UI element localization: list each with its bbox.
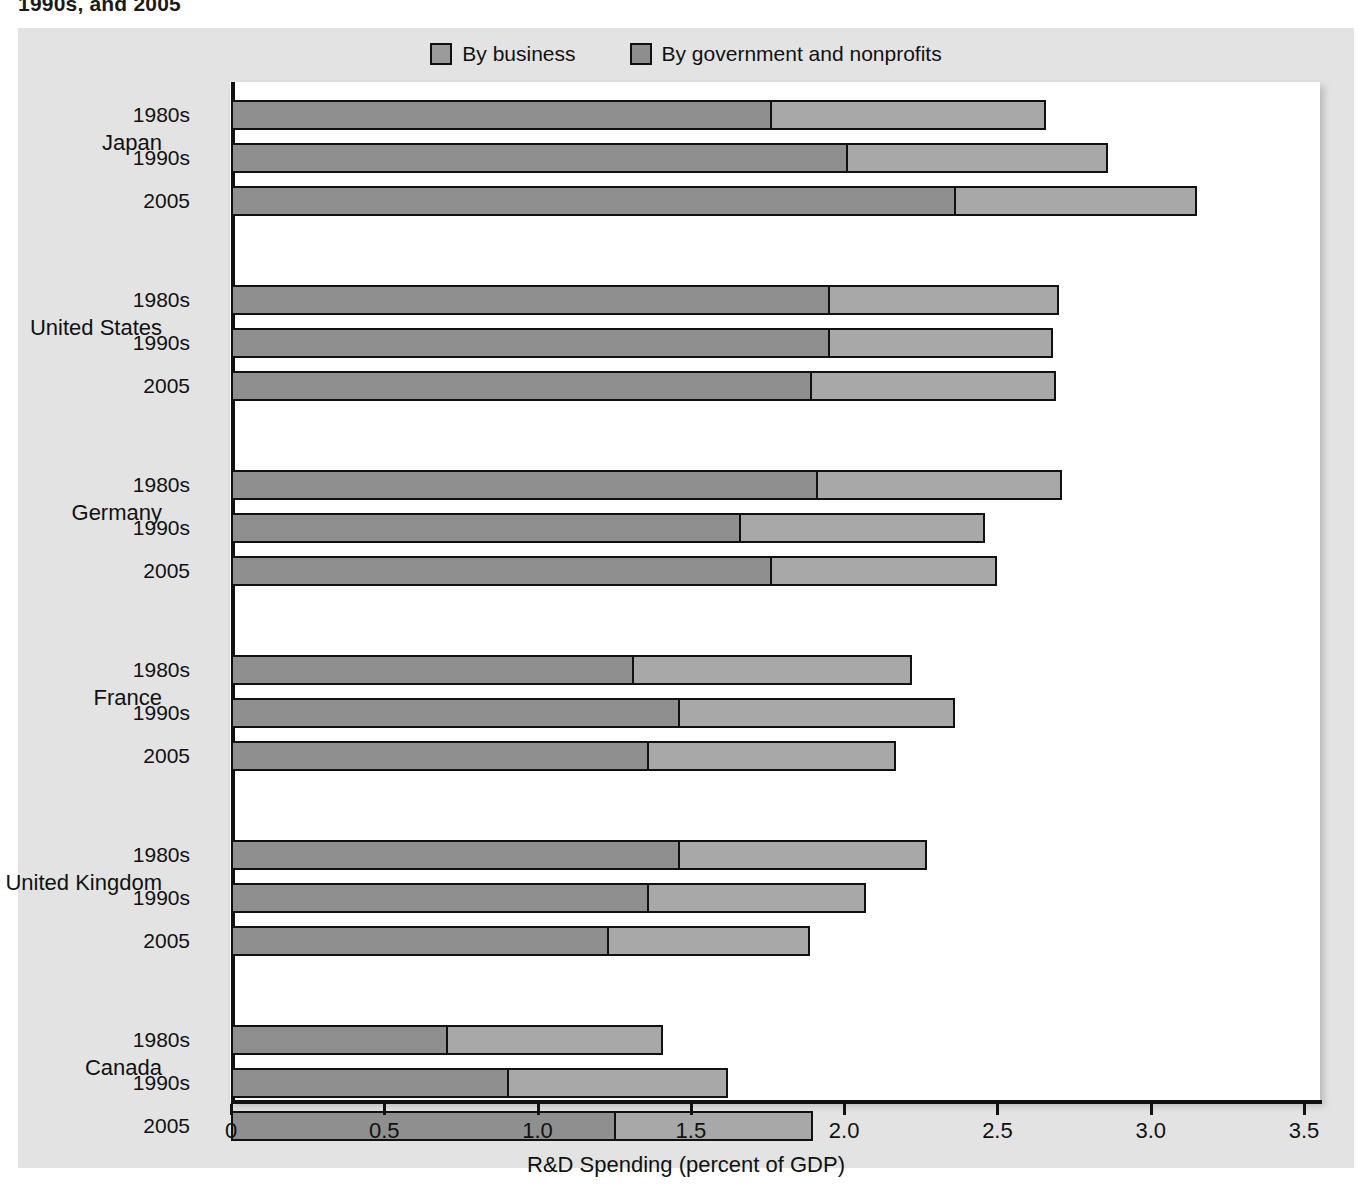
- bar-segment-government[interactable]: [446, 1027, 662, 1053]
- x-tick-mark: [843, 1104, 846, 1115]
- stacked-bar[interactable]: [231, 470, 1062, 500]
- bar-segment-government[interactable]: [954, 188, 1195, 214]
- x-tick-mark: [1150, 1104, 1153, 1115]
- bar-segment-business[interactable]: [233, 145, 846, 171]
- stacked-bar[interactable]: [231, 655, 912, 685]
- x-tick-label: 1.0: [522, 1118, 553, 1144]
- stacked-bar[interactable]: [231, 840, 927, 870]
- bar-segment-government[interactable]: [607, 928, 808, 954]
- x-tick-label: 0: [225, 1118, 237, 1144]
- stacked-bar[interactable]: [231, 328, 1053, 358]
- stacked-bar[interactable]: [231, 926, 810, 956]
- stacked-bar[interactable]: [231, 143, 1108, 173]
- bar-segment-government[interactable]: [739, 515, 983, 541]
- chart-row: 1980s: [18, 655, 1354, 685]
- chart-row: 1990s: [18, 143, 1354, 173]
- bar-segment-business[interactable]: [233, 1027, 446, 1053]
- country-label: United States: [0, 316, 162, 341]
- period-label: 1980s: [70, 658, 190, 682]
- bar-segment-business[interactable]: [233, 188, 954, 214]
- bar-segment-business[interactable]: [233, 842, 678, 868]
- chart-row: 1980s: [18, 470, 1354, 500]
- stacked-bar[interactable]: [231, 698, 955, 728]
- bar-segment-government[interactable]: [614, 1113, 812, 1139]
- x-tick-mark: [996, 1104, 999, 1115]
- x-tick-mark: [383, 1104, 386, 1115]
- stacked-bar[interactable]: [231, 513, 985, 543]
- bar-segment-business[interactable]: [233, 515, 739, 541]
- period-label: 2005: [70, 189, 190, 213]
- x-tick-mark: [690, 1104, 693, 1115]
- stacked-bar[interactable]: [231, 371, 1056, 401]
- bar-segment-government[interactable]: [678, 842, 925, 868]
- bar-segment-business[interactable]: [233, 102, 770, 128]
- bar-segment-government[interactable]: [770, 558, 996, 584]
- stacked-bar[interactable]: [231, 186, 1197, 216]
- x-tick-label: 0.5: [369, 1118, 400, 1144]
- chart-figure: By business By government and nonprofits…: [18, 28, 1354, 1168]
- x-axis-title: R&D Spending (percent of GDP): [18, 1152, 1354, 1178]
- period-label: 1980s: [70, 103, 190, 127]
- period-label: 2005: [70, 744, 190, 768]
- bar-segment-government[interactable]: [816, 472, 1060, 498]
- x-tick-label: 1.5: [676, 1118, 707, 1144]
- bar-segment-government[interactable]: [810, 373, 1054, 399]
- bar-segment-government[interactable]: [828, 330, 1051, 356]
- period-label: 1980s: [70, 288, 190, 312]
- chart-row: 1990s: [18, 883, 1354, 913]
- bar-segment-government[interactable]: [828, 287, 1057, 313]
- chart-row: 2005: [18, 371, 1354, 401]
- bar-segment-government[interactable]: [770, 102, 1045, 128]
- period-label: 1980s: [70, 1028, 190, 1052]
- figure-root: 1990s, and 2005 By business By governmen…: [0, 0, 1372, 1196]
- x-tick-label: 2.5: [982, 1118, 1013, 1144]
- bar-segment-business[interactable]: [233, 1070, 507, 1096]
- x-tick-label: 3.5: [1289, 1118, 1320, 1144]
- bar-segment-government[interactable]: [647, 743, 894, 769]
- chart-row: 1980s: [18, 1025, 1354, 1055]
- bar-segment-business[interactable]: [233, 928, 607, 954]
- bar-segment-business[interactable]: [233, 472, 816, 498]
- x-tick-mark: [230, 1104, 233, 1115]
- bar-segment-government[interactable]: [678, 700, 952, 726]
- chart-row: 1990s: [18, 698, 1354, 728]
- stacked-bar[interactable]: [231, 285, 1059, 315]
- x-tick-mark: [537, 1104, 540, 1115]
- bar-segment-business[interactable]: [233, 885, 647, 911]
- country-label: France: [0, 686, 162, 711]
- chart-row: 2005: [18, 556, 1354, 586]
- bar-segment-business[interactable]: [233, 558, 770, 584]
- bar-segment-business[interactable]: [233, 657, 632, 683]
- stacked-bar[interactable]: [231, 1068, 728, 1098]
- bar-segment-government[interactable]: [846, 145, 1105, 171]
- x-tick-mark: [1303, 1104, 1306, 1115]
- period-label: 2005: [70, 374, 190, 398]
- bar-segment-business[interactable]: [233, 330, 828, 356]
- period-label: 2005: [70, 1114, 190, 1138]
- stacked-bar[interactable]: [231, 556, 997, 586]
- country-label: Germany: [0, 501, 162, 526]
- country-label: Canada: [0, 1056, 162, 1081]
- bar-segment-government[interactable]: [647, 885, 863, 911]
- stacked-bar[interactable]: [231, 1025, 663, 1055]
- bar-segment-government[interactable]: [632, 657, 909, 683]
- chart-row: 1980s: [18, 840, 1354, 870]
- stacked-bar[interactable]: [231, 883, 866, 913]
- chart-row: 2005: [18, 741, 1354, 771]
- stacked-bar[interactable]: [231, 741, 896, 771]
- country-label: Japan: [0, 131, 162, 156]
- bar-segment-business[interactable]: [233, 743, 647, 769]
- bar-segment-business[interactable]: [233, 373, 810, 399]
- country-label: United Kingdom: [0, 871, 162, 896]
- bar-segment-government[interactable]: [507, 1070, 726, 1096]
- period-label: 2005: [70, 559, 190, 583]
- chart-row: 1990s: [18, 328, 1354, 358]
- stacked-bar[interactable]: [231, 100, 1046, 130]
- bar-segment-business[interactable]: [233, 287, 828, 313]
- bars-layer: 1980s1990s2005Japan1980s1990s2005United …: [18, 28, 1354, 1168]
- chart-row: 1980s: [18, 285, 1354, 315]
- bar-segment-business[interactable]: [233, 700, 678, 726]
- period-label: 2005: [70, 929, 190, 953]
- bar-segment-business[interactable]: [233, 1113, 614, 1139]
- chart-row: 1990s: [18, 1068, 1354, 1098]
